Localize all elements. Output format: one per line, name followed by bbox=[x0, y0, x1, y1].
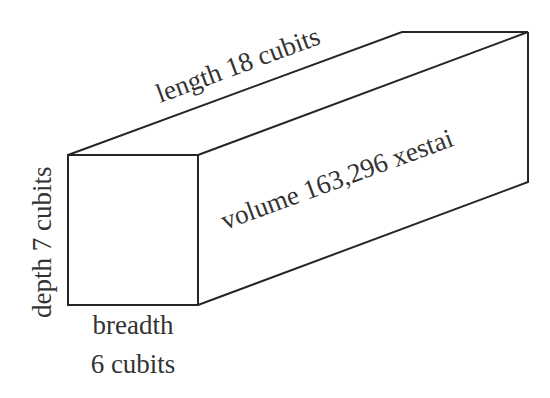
rectangular-prism-diagram: length 18 cubits volume 163,296 xestai d… bbox=[0, 0, 550, 398]
depth-label: depth 7 cubits bbox=[27, 167, 57, 318]
front-face bbox=[68, 155, 198, 305]
breadth-label-line2: 6 cubits bbox=[91, 349, 176, 379]
volume-label: volume 163,296 xestai bbox=[217, 123, 457, 236]
breadth-label-line1: breadth bbox=[93, 310, 174, 340]
length-label: length 18 cubits bbox=[152, 21, 324, 109]
